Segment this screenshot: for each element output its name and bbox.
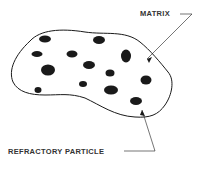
leader-lines [124,14,192,151]
matrix-leader [147,14,192,59]
matrix-outline [11,30,172,117]
matrix-label: MATRIX [140,9,170,18]
composite-diagram [0,0,200,169]
refractory-particle-label: REFRACTORY PARTICLE [8,147,104,156]
